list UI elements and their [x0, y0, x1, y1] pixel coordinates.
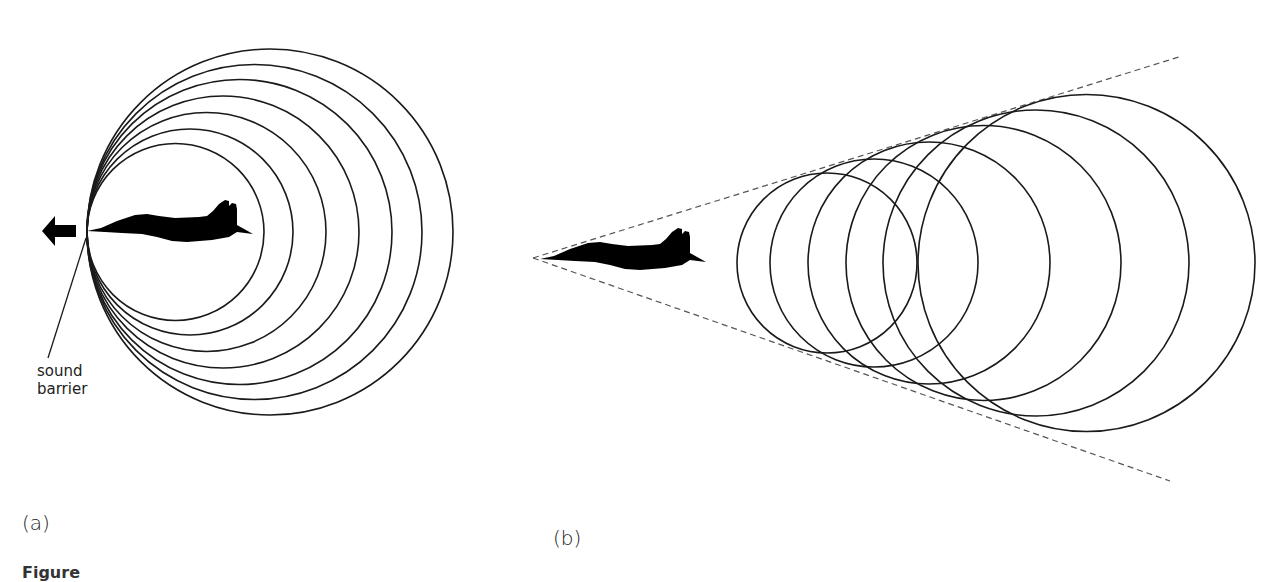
mach-cone-lower-line — [533, 258, 1170, 481]
panel-b-label: (b) — [553, 526, 581, 550]
sound-barrier-label-line1: sound — [37, 362, 83, 380]
jet-aircraft-icon — [87, 200, 253, 242]
sound-barrier-label-line2: barrier — [37, 380, 88, 398]
wave-circle — [883, 110, 1189, 416]
jet-aircraft-icon — [540, 228, 706, 270]
wave-circle — [918, 95, 1255, 432]
wave-circle — [737, 173, 917, 353]
wave-circle — [846, 126, 1121, 401]
panel-a: sound barrier (a) — [22, 49, 453, 535]
panel-b: (b) — [533, 56, 1255, 550]
wave-circle — [770, 159, 978, 367]
mach-cone-upper-line — [533, 56, 1182, 258]
sound-wave-circles-b — [737, 95, 1255, 432]
arrow-left-icon — [42, 216, 76, 246]
wave-circle — [808, 142, 1050, 384]
panel-a-label: (a) — [22, 511, 50, 535]
figure-caption: Figure — [22, 563, 80, 582]
sound-barrier-leader-line — [48, 238, 86, 358]
